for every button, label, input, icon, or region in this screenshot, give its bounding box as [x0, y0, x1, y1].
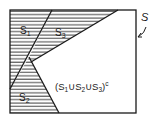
- label-universe: S: [141, 11, 149, 23]
- label-complement: (S1∪S2∪S3)c: [55, 80, 109, 93]
- venn-diagram: S1 S3 S2 (S1∪S2∪S3)c S: [0, 0, 158, 123]
